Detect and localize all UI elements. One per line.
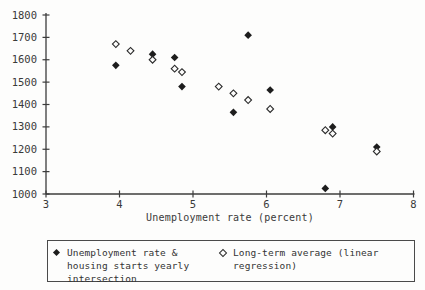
data-point-filled	[178, 83, 186, 91]
data-point-open	[245, 97, 252, 104]
marker-col	[54, 246, 67, 255]
x-tick-label: 3	[43, 198, 49, 210]
legend-item-intersection: Unemployment rate & housing starts yearl…	[54, 246, 220, 285]
data-point-filled	[171, 54, 179, 62]
y-tick-label: 1700	[12, 31, 37, 43]
data-point-open	[230, 90, 237, 97]
data-point-filled	[230, 109, 238, 117]
legend-item-longterm: Long-term average (linear regression)	[220, 246, 385, 272]
data-point-filled	[266, 86, 274, 94]
data-point-open	[215, 83, 222, 90]
y-tick-label: 1000	[12, 188, 37, 200]
data-point-open	[149, 56, 156, 63]
data-point-open	[267, 106, 274, 113]
data-point-filled	[112, 62, 120, 70]
filled-diamond-icon	[53, 249, 60, 256]
chart-canvas: 1000110012001300140015001600170018003456…	[0, 0, 425, 238]
data-point-filled	[321, 185, 329, 193]
x-tick-label: 7	[337, 198, 343, 210]
x-tick-label: 6	[263, 198, 269, 210]
y-tick-label: 1500	[12, 76, 37, 88]
data-point-open	[329, 130, 336, 137]
x-tick-label: 8	[410, 198, 416, 210]
legend: Unemployment rate & housing starts yearl…	[47, 240, 415, 282]
y-tick-label: 1600	[12, 53, 37, 65]
data-point-open	[171, 65, 178, 72]
legend-item-label: Unemployment rate & housing starts yearl…	[67, 246, 219, 285]
data-point-open	[179, 69, 186, 76]
data-point-filled	[244, 31, 252, 39]
legend-item-label: Long-term average (linear regression)	[233, 246, 385, 272]
y-tick-label: 1100	[12, 165, 37, 177]
y-tick-label: 1800	[12, 9, 37, 21]
y-tick-label: 1400	[12, 98, 37, 110]
data-point-open	[322, 127, 329, 134]
y-tick-label: 1300	[12, 120, 37, 132]
data-point-open	[112, 41, 119, 48]
x-tick-label: 5	[190, 198, 196, 210]
x-axis-label: Unemployment rate (percent)	[120, 212, 340, 223]
marker-col	[220, 246, 233, 256]
x-tick-label: 4	[116, 198, 122, 210]
open-diamond-icon	[219, 249, 227, 257]
unemployment-housing-scatter-chart: 1000110012001300140015001600170018003456…	[0, 0, 425, 290]
y-tick-label: 1200	[12, 143, 37, 155]
data-point-open	[373, 148, 380, 155]
data-point-open	[127, 47, 134, 54]
